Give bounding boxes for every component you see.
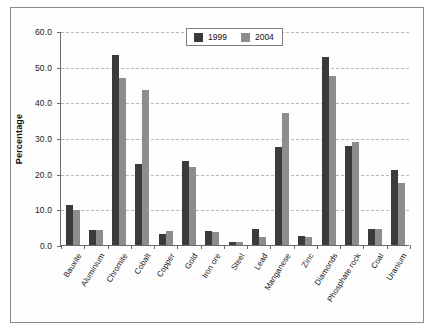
bar (398, 183, 405, 245)
bar-group (391, 32, 405, 245)
x-axis-tick-label-text: Iron ore (201, 250, 224, 280)
y-axis-tick-label: 60.0 (8, 27, 52, 37)
x-axis-tick-label-text: Steel (229, 250, 247, 272)
legend-swatch-icon (241, 33, 250, 42)
bar (305, 237, 312, 245)
y-axis-tick-mark (57, 139, 61, 140)
chart-legend: 19992004 (186, 28, 283, 46)
x-axis-tick-label-text: Uranium (385, 250, 410, 282)
legend-label: 1999 (208, 32, 227, 42)
bar-group (229, 32, 243, 245)
y-axis-tick-label: 20.0 (8, 170, 52, 180)
x-axis-tick-label-text: Coal (369, 250, 386, 270)
bar-group (66, 32, 80, 245)
x-axis-tick-label-text: Cobalt (133, 250, 154, 276)
x-axis-tick-label-text: Zinc (300, 250, 317, 269)
bar (322, 57, 329, 245)
bar-group (205, 32, 219, 245)
bar-group (159, 32, 173, 245)
bar-group (112, 32, 126, 245)
bar-group (275, 32, 289, 245)
x-axis-tick-label-text: Lead (252, 250, 270, 272)
bar-group (135, 32, 149, 245)
plot-area (60, 32, 409, 246)
y-axis-tick-label: 40.0 (8, 98, 52, 108)
bar (212, 232, 219, 245)
y-axis-tick-label: 0.0 (8, 241, 52, 251)
y-axis-tick-label: 10.0 (8, 205, 52, 215)
bar (329, 76, 336, 245)
bar-group (182, 32, 196, 245)
bar (112, 55, 119, 245)
legend-swatch-icon (194, 33, 203, 42)
legend-entry[interactable]: 2004 (241, 32, 274, 42)
y-axis-tick-mark (57, 32, 61, 33)
x-axis-tick-mark (61, 245, 62, 249)
plot-wrapper: Percentage 0.010.020.030.040.050.060.0 B… (0, 0, 434, 336)
y-axis-tick-label: 50.0 (8, 63, 52, 73)
x-axis-tick-label-text: Copper (155, 250, 178, 279)
x-axis-tick-label-text: Chromite (105, 250, 131, 284)
x-axis-tick-label-text: Gold (183, 250, 201, 271)
bar (73, 210, 80, 245)
y-axis-tick-mark (57, 103, 61, 104)
y-axis-tick-mark (57, 175, 61, 176)
bar-group (345, 32, 359, 245)
bar (259, 237, 266, 245)
x-axis-tick-label-text: Bauxite (61, 250, 84, 279)
bar (236, 242, 243, 245)
legend-label: 2004 (255, 32, 274, 42)
bar (275, 147, 282, 245)
legend-entry[interactable]: 1999 (194, 32, 227, 42)
chart-figure: Percentage 0.010.020.030.040.050.060.0 B… (0, 0, 434, 336)
bar-group (252, 32, 266, 245)
bar-group (89, 32, 103, 245)
bar-group (322, 32, 336, 245)
y-axis-tick-mark (57, 68, 61, 69)
y-axis-tick-label: 30.0 (8, 134, 52, 144)
bar (66, 205, 73, 245)
bar (282, 113, 289, 245)
y-axis-tick-mark (57, 210, 61, 211)
